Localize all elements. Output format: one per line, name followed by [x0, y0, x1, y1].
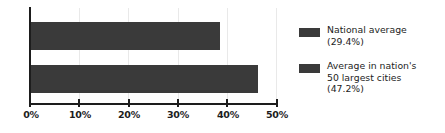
x-tick-label-20: 20%: [118, 109, 140, 120]
legend-label-national-average: National average (29.4%): [327, 24, 407, 47]
chart-legend: National average (29.4%) Average in nati…: [299, 24, 445, 108]
y-axis-line: [29, 7, 31, 104]
x-tick-20: [128, 99, 130, 107]
legend-swatch-icon-national-average: [299, 28, 320, 37]
legend-swatch-icon-largest-cities: [299, 64, 320, 73]
legend-item-largest-cities: Average in nation's 50 largest cities (4…: [299, 60, 445, 95]
bar-largest-cities: [30, 65, 258, 93]
x-tick-0: [29, 99, 31, 107]
x-tick-40: [226, 99, 228, 107]
x-tick-50: [276, 99, 278, 107]
x-tick-10: [78, 99, 80, 107]
gridline-50: [276, 8, 277, 103]
x-tick-label-40: 40%: [217, 109, 239, 120]
x-tick-30: [177, 99, 179, 107]
bar-chart: 0% 10% 20% 30% 40% 50% National average …: [0, 0, 445, 133]
x-tick-label-50: 50%: [266, 109, 288, 120]
x-tick-label-0: 0%: [23, 109, 39, 120]
plot-area: [30, 8, 277, 103]
x-tick-label-10: 10%: [69, 109, 91, 120]
x-axis-line: [29, 103, 278, 105]
x-tick-label-30: 30%: [167, 109, 189, 120]
legend-item-national-average: National average (29.4%): [299, 24, 445, 47]
bar-national-average: [30, 22, 220, 50]
legend-label-largest-cities: Average in nation's 50 largest cities (4…: [327, 60, 416, 95]
